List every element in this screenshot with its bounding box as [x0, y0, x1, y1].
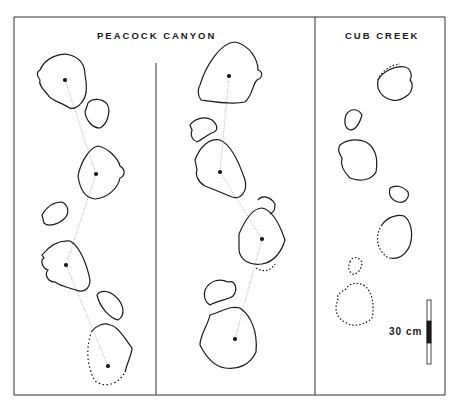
panel-title-peacock-canyon: PEACOCK CANYON [97, 30, 216, 41]
trackway-figure [0, 0, 456, 405]
trackway-peacock-left [37, 54, 132, 384]
scale-bar-label: 30 cm [389, 326, 422, 337]
panel-title-cub-creek: CUB CREEK [345, 30, 419, 41]
trackway-peacock-right [190, 42, 285, 368]
trackway-cub-creek [336, 64, 412, 325]
figure-frame [14, 17, 445, 395]
scale-bar [427, 300, 431, 364]
